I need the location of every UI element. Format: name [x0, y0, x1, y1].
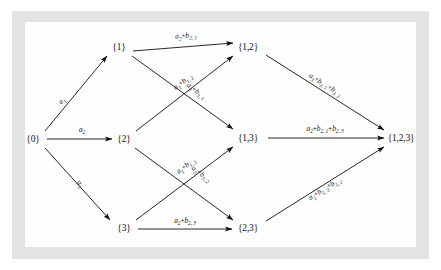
edge-n0-to-n1: [45, 56, 107, 131]
edge-n1-to-n13: [132, 56, 233, 129]
edge-label-n0-to-n2: a2: [79, 125, 85, 135]
node-n123: {1,2,3}: [388, 133, 415, 143]
diagram-canvas: [0, 0, 441, 270]
scanned-figure: {0}{1}{2}{3}{1,2}{1,3}{2,3}{1,2,3} a1a2a…: [0, 0, 441, 270]
edge-n1-to-n12: [133, 43, 233, 51]
edge-label-n3-to-n23: a2+b2, 3: [174, 216, 196, 226]
node-n23: {2,3}: [238, 223, 258, 233]
edge-layer: [45, 43, 384, 229]
edge-n2-to-n12: [136, 56, 233, 131]
edge-label-n1-to-n12: a2+b2, 1: [175, 30, 197, 42]
node-n3: {3}: [117, 223, 130, 233]
node-n2: {2}: [117, 134, 130, 144]
node-n12: {1,2}: [238, 42, 258, 52]
node-n0: {0}: [26, 134, 39, 144]
edge-label-n13-to-n123: a2+b2, 1+b2, 3: [307, 124, 344, 134]
node-n1: {1}: [112, 42, 125, 52]
node-n13: {1,3}: [238, 133, 258, 143]
edge-n12-to-n123: [266, 55, 384, 130]
